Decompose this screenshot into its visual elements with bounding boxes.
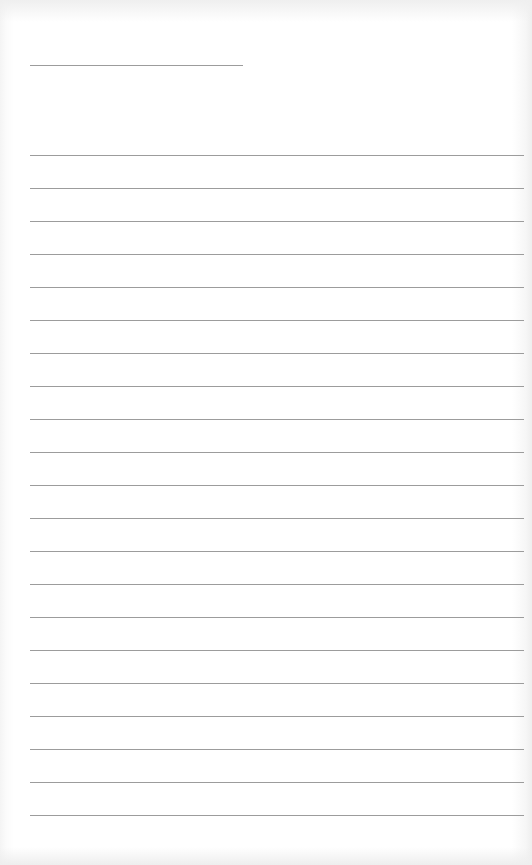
ruled-line [30,221,524,222]
lined-paper [0,0,532,865]
ruled-line [30,419,524,420]
ruled-line [30,485,524,486]
bottom-edge-shadow [0,847,532,865]
ruled-line [30,815,524,816]
ruled-line [30,650,524,651]
ruled-line [30,287,524,288]
ruled-line [30,584,524,585]
ruled-line [30,353,524,354]
ruled-line [30,716,524,717]
ruled-line [30,683,524,684]
ruled-line [30,188,524,189]
ruled-line [30,749,524,750]
title-line [30,65,243,66]
ruled-line [30,518,524,519]
ruled-line [30,617,524,618]
ruled-line [30,551,524,552]
ruled-line [30,320,524,321]
ruled-line [30,155,524,156]
top-edge-shadow [0,0,532,22]
ruled-line [30,386,524,387]
ruled-line [30,254,524,255]
ruled-line [30,782,524,783]
ruled-line [30,452,524,453]
